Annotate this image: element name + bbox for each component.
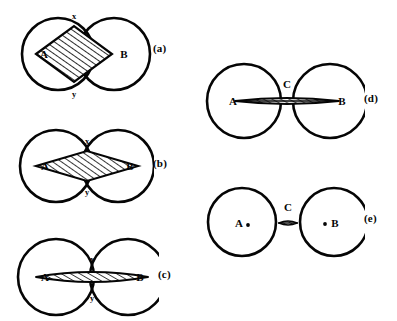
label-b-right-center: B [126, 160, 134, 172]
hatched-connector-e [278, 221, 298, 225]
label-a-left-center: A [40, 48, 48, 60]
label-a-point-x: x [72, 11, 77, 21]
panel-c: A B x y (c) [14, 231, 159, 319]
label-c-right-center: B [136, 271, 144, 283]
hatched-region-b [36, 151, 138, 181]
label-e-right-center: B [331, 217, 339, 229]
center-dot-e-right [323, 222, 327, 226]
label-e-left-center: A [235, 217, 243, 229]
label-d-left-center: A [229, 95, 237, 107]
hatched-region-c [36, 272, 148, 282]
panel-tag-e: (e) [364, 213, 377, 224]
panel-e: A B C (e) [205, 178, 365, 264]
panel-tag-c: (c) [158, 269, 171, 280]
panel-tag-a: (a) [153, 43, 166, 54]
panel-tag-b: (b) [153, 158, 167, 169]
hatched-bridge-d [235, 98, 339, 104]
label-a-point-y: y [72, 89, 77, 99]
panel-a: A B x y (a) [14, 2, 154, 106]
panel-d: A B C (d) [205, 55, 365, 147]
panel-e-diagram: A B C [205, 178, 365, 264]
label-d-bridge-c: C [283, 78, 291, 90]
panel-d-diagram: A B C [205, 55, 365, 147]
label-a-right-center: B [120, 48, 128, 60]
panel-b-diagram: A B x y [14, 117, 154, 215]
panel-b: A B x y (b) [14, 117, 154, 215]
label-d-right-center: B [338, 95, 346, 107]
label-e-connector-c: C [284, 201, 292, 213]
panel-c-diagram: A B x y [14, 231, 159, 319]
center-dot-e-left [246, 223, 250, 227]
panel-tag-d: (d) [364, 93, 378, 104]
panel-a-diagram: A B x y [14, 2, 154, 106]
figure-root: A B x y (a) A B x y (b [0, 0, 397, 321]
label-b-left-center: A [41, 160, 49, 172]
label-c-left-center: A [41, 271, 49, 283]
